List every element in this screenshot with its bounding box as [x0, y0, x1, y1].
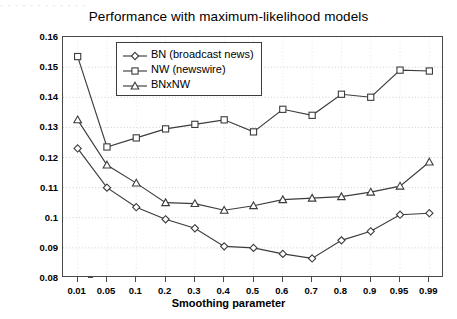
- data-point: [133, 135, 139, 141]
- x-tick-label: 0.99: [408, 285, 448, 296]
- y-tick-label: 0.12: [28, 151, 58, 162]
- y-tick-label: 0.1: [28, 211, 58, 222]
- data-point: [250, 244, 257, 251]
- data-point: [162, 126, 168, 132]
- y-tick-label: 0.11: [28, 181, 58, 192]
- data-point: [426, 158, 434, 165]
- data-point: [221, 243, 228, 250]
- y-tick-label: 0.14: [28, 91, 58, 102]
- chart-figure: - - - - - - - - - - - - Performance with…: [0, 0, 457, 319]
- x-axis-label: Smoothing parameter: [0, 297, 457, 309]
- legend-label: BN (broadcast news): [151, 48, 254, 60]
- data-point: [279, 250, 286, 257]
- data-point: [338, 91, 344, 97]
- data-point: [368, 94, 374, 100]
- legend-item-triangle: BNxNW: [122, 76, 254, 91]
- data-point: [309, 255, 316, 262]
- y-tick-label: 0.13: [28, 121, 58, 132]
- data-point: [426, 210, 433, 217]
- chart-title: Performance with maximum-likelihood mode…: [0, 9, 457, 24]
- data-point: [309, 112, 315, 118]
- data-point: [103, 161, 111, 168]
- data-point: [74, 116, 82, 123]
- data-point: [162, 216, 169, 223]
- y-axis-ticks: 0.080.090.10.110.120.130.140.150.16: [26, 36, 58, 277]
- data-point: [338, 237, 345, 244]
- data-point: [132, 179, 140, 186]
- y-tick-label: 0.15: [28, 61, 58, 72]
- y-tick-label: 0.16: [28, 31, 58, 42]
- data-point: [75, 53, 81, 59]
- diamond-marker-icon: [122, 48, 148, 60]
- data-point: [397, 67, 403, 73]
- data-point: [221, 117, 227, 123]
- legend-label: BNxNW: [151, 78, 190, 90]
- legend: BN (broadcast news)NW (newswire)BNxNW: [116, 42, 262, 96]
- data-point: [191, 225, 198, 232]
- data-point: [104, 144, 110, 150]
- data-point: [192, 121, 198, 127]
- data-point: [133, 204, 140, 211]
- data-point: [367, 228, 374, 235]
- legend-label: NW (newswire): [151, 63, 226, 75]
- y-tick-label: 0.09: [28, 241, 58, 252]
- data-point: [280, 106, 286, 112]
- legend-item-diamond: BN (broadcast news): [122, 46, 254, 61]
- triangle-marker-icon: [122, 78, 148, 90]
- legend-item-square: NW (newswire): [122, 61, 254, 76]
- data-point: [250, 129, 256, 135]
- square-marker-icon: [122, 63, 148, 75]
- data-point: [396, 211, 403, 218]
- data-point: [426, 68, 432, 74]
- y-tick-label: 0.08: [28, 272, 58, 283]
